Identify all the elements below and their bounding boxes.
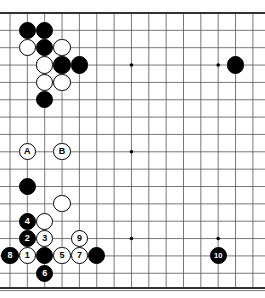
stone-black-move-6: 6	[36, 265, 53, 282]
stone-black	[53, 56, 70, 73]
stone-black	[71, 56, 88, 73]
stone-white	[53, 39, 70, 56]
stone-white	[36, 56, 53, 73]
stone-black-move-4: 4	[19, 213, 36, 230]
stone-white	[53, 195, 70, 212]
stone-black-move-2: 2	[19, 230, 36, 247]
stone-black	[227, 56, 244, 73]
star-point	[130, 63, 134, 67]
star-point	[216, 63, 220, 67]
stone-black	[19, 22, 36, 39]
stone-white-move-5: 5	[53, 247, 70, 264]
stone-black	[19, 178, 36, 195]
marker-b: B	[53, 143, 70, 160]
stone-white	[53, 74, 70, 91]
star-point	[130, 150, 134, 154]
stone-black-move-8: 8	[1, 247, 18, 264]
go-board-diagram: 42398157610AB	[0, 0, 265, 298]
stone-white-move-9: 9	[71, 230, 88, 247]
stone-white	[36, 213, 53, 230]
star-point	[216, 237, 220, 241]
star-point	[130, 237, 134, 241]
